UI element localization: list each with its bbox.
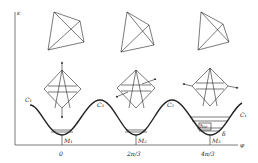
minimum-label-3: M₃ (212, 138, 221, 144)
octahedron-2 (116, 70, 156, 108)
tetrahedron-1 (48, 12, 84, 50)
x-tick-0: 0 (59, 151, 63, 157)
quantum-label: ħω (200, 124, 207, 129)
x-tick-1: 2π/3 (127, 151, 141, 157)
y-axis-label: ε (17, 10, 20, 16)
octahedron-1 (44, 62, 81, 118)
curve-label-c2: C₂ (167, 102, 174, 108)
x-tick-2: 4π/3 (201, 151, 215, 157)
tetrahedron-2 (121, 12, 154, 52)
minimum-label-1: M₁ (64, 138, 73, 144)
tetrahedron-3 (198, 12, 229, 50)
curve-label-c1-left: C₁ (25, 97, 32, 103)
x-axis-label: φ (240, 142, 244, 148)
curve-label-c3: C₃ (97, 102, 104, 108)
octahedron-3 (183, 68, 238, 106)
curve-label-c1-right: C₁ (240, 112, 247, 118)
minimum-label-2: M₂ (138, 138, 147, 144)
splitting-label: δ (222, 131, 226, 137)
